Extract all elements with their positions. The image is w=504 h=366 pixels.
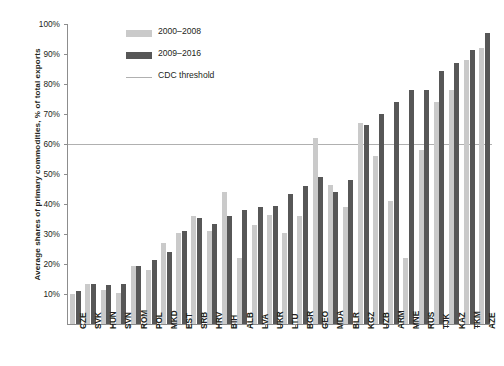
bar-group: [419, 24, 430, 324]
bar: [318, 177, 323, 324]
x-tick-label: SVK: [94, 312, 103, 329]
bar-group: [403, 24, 414, 324]
x-tick-label: BLR: [352, 312, 361, 329]
y-tick-label: 60%: [0, 140, 60, 148]
x-tick-label: MKD: [170, 310, 179, 329]
x-tick-label: MDA: [336, 310, 345, 329]
x-tick-label: GEO: [321, 311, 330, 329]
bar: [485, 33, 490, 324]
bar: [182, 231, 187, 324]
x-tick-label: LVA: [261, 314, 270, 329]
bar-group: [434, 24, 445, 324]
x-tick-label: UKR: [276, 311, 285, 329]
x-tick-label: UZB: [382, 312, 391, 329]
y-tick-label: 10%: [0, 290, 60, 298]
bar-group: [479, 24, 490, 324]
bar: [222, 192, 227, 324]
bar: [409, 90, 414, 324]
y-tick-label: 20%: [0, 260, 60, 268]
bar-group: [328, 24, 339, 324]
legend-label-cdc-threshold: CDC threshold: [158, 70, 214, 80]
bar: [464, 60, 469, 324]
x-tick-label: HUN: [109, 311, 118, 329]
x-tick-label: TKM: [473, 311, 482, 329]
legend-item-cdc-threshold: CDC threshold: [126, 68, 306, 90]
x-tick-label: BGR: [306, 311, 315, 329]
bar: [333, 192, 338, 324]
x-tick-label: TJK: [442, 314, 451, 329]
bar-group: [388, 24, 399, 324]
bar: [388, 201, 393, 324]
bar: [242, 210, 247, 324]
chart-legend: 2000–2008 2009–2016 CDC threshold: [126, 24, 306, 90]
y-tick-label: 100%: [0, 20, 60, 28]
x-tick-label: CZE: [79, 313, 88, 329]
legend-dark-swatch-icon: [126, 52, 152, 59]
bar-group: [373, 24, 384, 324]
bar: [252, 225, 257, 324]
legend-light-swatch-icon: [126, 30, 152, 37]
x-tick-label: POL: [155, 312, 164, 329]
legend-label-2000-2008: 2000–2008: [158, 26, 201, 36]
bar: [379, 114, 384, 324]
bar-group: [464, 24, 475, 324]
bar: [343, 207, 348, 324]
bar-chart-figure: Average shares of primary commodities, %…: [0, 0, 504, 366]
bar: [394, 102, 399, 324]
bar: [449, 90, 454, 324]
x-tick-label: BIH: [230, 315, 239, 329]
legend-item-2009-2016: 2009–2016: [126, 46, 306, 68]
bar-group: [70, 24, 81, 324]
y-tick-label: 40%: [0, 200, 60, 208]
bar: [227, 216, 232, 324]
y-tick-label: 30%: [0, 230, 60, 238]
x-tick-label: ARM: [397, 310, 406, 329]
bar: [434, 102, 439, 324]
y-tick-label: 70%: [0, 110, 60, 118]
legend-item-2000-2008: 2000–2008: [126, 24, 306, 46]
bar: [419, 150, 424, 324]
bar: [197, 218, 202, 325]
x-tick-label: SRB: [200, 312, 209, 329]
bar: [358, 123, 363, 324]
x-tick-label: RUS: [427, 312, 436, 329]
legend-line-icon: [126, 77, 152, 78]
bar-group: [101, 24, 112, 324]
y-tick-label: 90%: [0, 50, 60, 58]
bar: [303, 186, 308, 324]
x-tick-label: HRV: [215, 312, 224, 329]
bar: [212, 224, 217, 325]
bar: [191, 216, 196, 324]
bar: [348, 180, 353, 324]
bar-group: [343, 24, 354, 324]
x-tick-label: LTU: [291, 314, 300, 329]
bar-group: [85, 24, 96, 324]
x-tick-label: AZE: [488, 313, 497, 329]
bar: [258, 207, 263, 324]
bar: [207, 231, 212, 324]
bar: [328, 185, 333, 325]
x-tick-label: KAZ: [458, 312, 467, 329]
legend-label-2009-2016: 2009–2016: [158, 48, 201, 58]
x-tick-label: ALB: [246, 312, 255, 329]
bar: [70, 294, 75, 324]
bar: [313, 138, 318, 324]
bar-group: [313, 24, 324, 324]
bar: [439, 71, 444, 325]
bar: [424, 90, 429, 324]
x-tick-label: EST: [185, 313, 194, 329]
bar: [273, 206, 278, 325]
bar: [373, 156, 378, 324]
bar: [297, 216, 302, 324]
bar: [470, 50, 475, 325]
x-tick-label: SVN: [124, 312, 133, 329]
x-tick-label: ROM: [140, 310, 149, 329]
bar: [454, 63, 459, 324]
bar-group: [116, 24, 127, 324]
x-tick-label: MNE: [412, 311, 421, 329]
y-tick-label: 50%: [0, 170, 60, 178]
bar: [364, 125, 369, 325]
x-tick-label: KGZ: [367, 312, 376, 329]
y-tick-label: 80%: [0, 80, 60, 88]
bar-group: [449, 24, 460, 324]
